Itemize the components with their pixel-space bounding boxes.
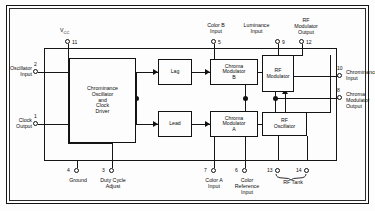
pin-13-number: 13 <box>267 168 273 173</box>
block-diagram-page: Chrominance Oscillator and Clock Driver … <box>0 0 375 211</box>
block-lead: Lead <box>158 111 192 137</box>
pin-8-label: Chroma Modulator Output <box>346 92 374 110</box>
block-lag: Lag <box>158 59 192 85</box>
pin-3-number: 3 <box>102 168 105 173</box>
pin-5-label: Color B Input <box>196 23 236 35</box>
block-label-rf-modulator: RF Modulator <box>266 68 289 79</box>
pin-12-label: RF Modulator Output <box>286 18 326 36</box>
block-chroma-modulator-a: Chroma Modulator A <box>210 111 258 137</box>
wire-pin5-lead <box>214 44 215 49</box>
wire-rfosc-pin13 <box>278 136 279 161</box>
pin-11-label: VCC <box>60 28 69 36</box>
wire-pin9-lead <box>278 44 279 49</box>
pin-6-label: Color Reference Input <box>230 178 264 196</box>
pin-2-label: Oscillator Input <box>2 66 32 78</box>
junction-dot-color-reference <box>243 96 248 101</box>
pin-3-label: Duty Cycle Adjust <box>91 178 135 190</box>
wire-pin12-to-rfmod <box>294 55 303 56</box>
pin-6-number: 6 <box>235 168 238 173</box>
block-label-lag: Lag <box>171 69 180 75</box>
pin-1-number: 1 <box>34 114 37 119</box>
pin-7-number: 7 <box>204 168 207 173</box>
block-label-chrominance-oscillator: Chrominance Oscillator and Clock Driver <box>87 86 118 114</box>
wire-pin6-lead <box>245 161 246 168</box>
block-rf-oscillator: RF Oscillator <box>262 112 307 136</box>
block-label-chroma-modulator-b: Chroma Modulator B <box>222 64 245 81</box>
wire-rfosc-right <box>307 112 331 113</box>
block-rf-modulator: RF Modulator <box>262 55 294 92</box>
pin-4-number: 4 <box>67 168 70 173</box>
pin-5-number: 5 <box>218 40 221 45</box>
pin-10-number: 10 <box>337 66 343 71</box>
pin-11-number: 11 <box>72 40 77 45</box>
block-label-rf-oscillator: RF Oscillator <box>274 118 296 129</box>
block-label-chroma-modulator-a: Chroma Modulator A <box>222 116 245 133</box>
wire-pin7-to-moda <box>214 136 215 161</box>
wire-rfosc-feedback <box>330 55 331 113</box>
wire-pin10-to-rfmod <box>294 76 338 77</box>
rf-tank-label: RF Tank <box>272 180 314 186</box>
wire-pin1-to-chrominance <box>38 124 69 125</box>
wire-rfosc-to-rfmod <box>285 92 286 114</box>
wire-pin4-lead <box>77 161 78 168</box>
block-chroma-modulator-b: Chroma Modulator B <box>210 59 258 85</box>
pin-7-label: Color A Input <box>196 178 232 190</box>
wire-pin3-lead <box>112 143 113 168</box>
pin-9-label: Luminance Input <box>235 23 278 35</box>
pin-11-label-sub: CC <box>64 30 70 35</box>
pin-2-number: 2 <box>34 62 37 67</box>
wire-pin12-drop <box>302 44 303 55</box>
pin-10-label: Chrominance Input <box>346 70 374 82</box>
wire-left-spine-bottom <box>68 143 112 144</box>
pin-9-number: 9 <box>282 40 285 45</box>
block-chrominance-oscillator: Chrominance Oscillator and Clock Driver <box>69 58 136 143</box>
pin-8-number: 8 <box>337 88 340 93</box>
wire-rfosc-pin14 <box>307 136 308 161</box>
pin-12-number: 12 <box>306 40 312 45</box>
pin-1-label: Clock Output <box>2 118 32 130</box>
wire-pin2-to-chrominance <box>38 72 69 73</box>
wire-pin7-lead <box>214 161 215 168</box>
block-label-lead: Lead <box>169 121 181 127</box>
